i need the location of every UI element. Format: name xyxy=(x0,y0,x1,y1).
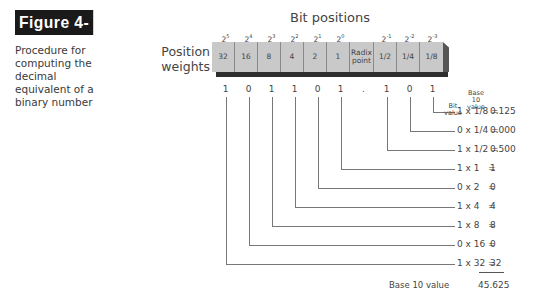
weight-cell: 1/2 xyxy=(374,42,397,72)
computation-result: 32 xyxy=(490,258,501,268)
bit-value: 0 xyxy=(237,84,260,94)
bit-positions-title: Bit positions xyxy=(245,10,415,25)
computation-result: 0 xyxy=(490,239,496,249)
bit-value: 1 xyxy=(329,84,352,94)
radix-point-cell: Radix point xyxy=(350,42,374,72)
bar-side-face xyxy=(443,42,449,72)
connector-line xyxy=(226,264,455,265)
sum-underline xyxy=(479,272,504,273)
connector-line xyxy=(272,97,273,227)
connector-line xyxy=(410,97,411,132)
connector-line xyxy=(318,97,319,189)
computation-result: 0.500 xyxy=(490,144,516,154)
weight-cell: 8 xyxy=(258,42,281,72)
radix-point-dot: . xyxy=(352,84,375,94)
figure-caption: Procedure for computing the decimal equi… xyxy=(15,44,110,109)
bit-value: 1 xyxy=(283,84,306,94)
connector-line xyxy=(387,150,455,151)
position-weights-label: Position weights xyxy=(160,44,210,74)
weight-cell: 1/4 xyxy=(397,42,420,72)
bit-value: 1 xyxy=(214,84,237,94)
connector-line xyxy=(387,97,388,151)
computation-result: 0 xyxy=(490,182,496,192)
bit-value: 1 xyxy=(375,84,398,94)
connector-line xyxy=(249,245,455,246)
connector-line xyxy=(341,169,455,170)
connector-line xyxy=(226,97,227,265)
computation-result: 0.125 xyxy=(490,106,516,116)
computation-result: 4 xyxy=(490,201,496,211)
figure-label: Figure 4-4 xyxy=(15,10,93,35)
total-value: 45.625 xyxy=(478,280,510,290)
weight-cell: 4 xyxy=(281,42,304,72)
computation-result: 1 xyxy=(490,163,496,173)
weight-cell: 32 xyxy=(212,42,235,72)
connector-line xyxy=(410,131,455,132)
bit-value: 1 xyxy=(260,84,283,94)
bit-value: 0 xyxy=(398,84,421,94)
connector-line xyxy=(433,97,434,113)
connector-line xyxy=(249,97,250,246)
bit-value: 1 xyxy=(421,84,444,94)
weight-cell: 1/8 xyxy=(420,42,443,72)
bit-value: 0 xyxy=(306,84,329,94)
connector-line xyxy=(318,188,455,189)
computation-result: 8 xyxy=(490,220,496,230)
computation-result: 0.000 xyxy=(490,125,516,135)
connector-line xyxy=(295,207,455,208)
connector-line xyxy=(272,226,455,227)
weight-cell: 16 xyxy=(235,42,258,72)
connector-line xyxy=(295,97,296,208)
connector-line xyxy=(341,97,342,170)
weight-cell: 1 xyxy=(327,42,350,72)
total-label: Base 10 value xyxy=(389,280,449,290)
weight-cell: 2 xyxy=(304,42,327,72)
